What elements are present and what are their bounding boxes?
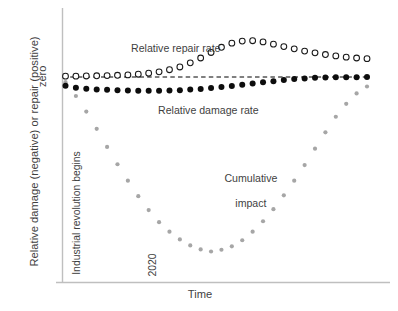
data-point bbox=[251, 230, 255, 234]
data-point bbox=[104, 87, 110, 93]
data-point bbox=[323, 52, 329, 58]
data-point bbox=[198, 86, 204, 92]
data-point bbox=[126, 179, 130, 183]
data-point bbox=[105, 145, 109, 149]
data-point bbox=[83, 86, 89, 92]
data-point bbox=[73, 85, 79, 91]
data-point bbox=[146, 88, 152, 94]
data-point bbox=[229, 40, 235, 46]
data-point bbox=[219, 248, 223, 252]
annotation-year-2020: 2020 bbox=[147, 241, 159, 289]
data-point bbox=[156, 69, 162, 75]
data-point bbox=[209, 249, 213, 253]
data-point bbox=[167, 230, 171, 234]
y-tick-label-zero: zero bbox=[36, 54, 49, 98]
data-point bbox=[270, 78, 276, 84]
data-point bbox=[199, 247, 203, 251]
data-point bbox=[239, 38, 245, 44]
data-point bbox=[208, 85, 214, 91]
data-point bbox=[95, 127, 99, 131]
data-point bbox=[187, 60, 193, 66]
data-point bbox=[187, 87, 193, 93]
data-point bbox=[312, 50, 318, 56]
data-point bbox=[94, 86, 100, 92]
data-point bbox=[364, 56, 370, 62]
data-point bbox=[344, 102, 348, 106]
data-point bbox=[146, 70, 152, 76]
data-point bbox=[364, 74, 370, 80]
data-point bbox=[355, 91, 359, 95]
data-point bbox=[354, 74, 360, 80]
data-point bbox=[281, 77, 287, 83]
data-point bbox=[125, 87, 131, 93]
data-point bbox=[147, 208, 151, 212]
annotation-relative-repair-rate: Relative repair rate bbox=[131, 42, 221, 54]
data-point bbox=[177, 64, 183, 70]
data-point bbox=[73, 73, 79, 79]
chart-container: Relative damage (negative) or repair (po… bbox=[0, 0, 398, 311]
data-point bbox=[291, 46, 297, 52]
data-point bbox=[333, 74, 339, 80]
data-point bbox=[343, 54, 349, 60]
data-point bbox=[115, 162, 119, 166]
data-point bbox=[188, 243, 192, 247]
data-point bbox=[218, 84, 224, 90]
annotation-industrial-revolution-begins: Industrial revolution begins bbox=[71, 128, 83, 298]
data-point bbox=[115, 72, 121, 78]
data-point bbox=[334, 115, 338, 119]
data-point bbox=[63, 83, 69, 89]
data-point bbox=[114, 87, 120, 93]
data-point bbox=[291, 76, 297, 82]
data-point bbox=[365, 84, 369, 88]
annotation-cumulative-line-2: impact bbox=[235, 197, 266, 209]
data-point bbox=[74, 94, 78, 98]
data-point bbox=[281, 44, 287, 50]
data-point bbox=[157, 220, 161, 224]
data-point bbox=[271, 41, 277, 47]
data-point bbox=[260, 39, 266, 45]
data-point bbox=[198, 55, 204, 61]
data-point bbox=[239, 82, 245, 88]
data-point bbox=[292, 179, 296, 183]
data-point bbox=[260, 79, 266, 85]
data-point bbox=[177, 87, 183, 93]
data-point bbox=[302, 48, 308, 54]
annotation-relative-damage-rate: Relative damage rate bbox=[158, 104, 259, 116]
data-point bbox=[83, 73, 89, 79]
data-point bbox=[230, 244, 234, 248]
data-point bbox=[166, 87, 172, 93]
data-point bbox=[135, 88, 141, 94]
data-point bbox=[250, 81, 256, 87]
data-point bbox=[84, 109, 88, 113]
data-point bbox=[343, 74, 349, 80]
data-point bbox=[312, 75, 318, 81]
data-point bbox=[323, 130, 327, 134]
data-point bbox=[94, 73, 100, 79]
data-point bbox=[302, 75, 308, 81]
data-point bbox=[354, 55, 360, 61]
annotation-cumulative-impact: Cumulative impact bbox=[202, 160, 288, 221]
data-point bbox=[63, 73, 69, 79]
annotation-cumulative-line-1: Cumulative bbox=[224, 172, 277, 184]
data-point bbox=[167, 67, 173, 73]
data-point bbox=[125, 72, 131, 78]
data-point bbox=[333, 53, 339, 59]
data-point bbox=[250, 38, 256, 44]
data-point bbox=[229, 83, 235, 89]
data-point bbox=[303, 163, 307, 167]
data-point bbox=[136, 194, 140, 198]
data-point bbox=[240, 238, 244, 242]
data-point bbox=[135, 71, 141, 77]
x-axis-title: Time bbox=[150, 288, 250, 301]
data-point bbox=[313, 147, 317, 151]
data-point bbox=[156, 88, 162, 94]
data-point bbox=[178, 237, 182, 241]
data-point bbox=[322, 75, 328, 81]
data-point bbox=[104, 73, 110, 79]
